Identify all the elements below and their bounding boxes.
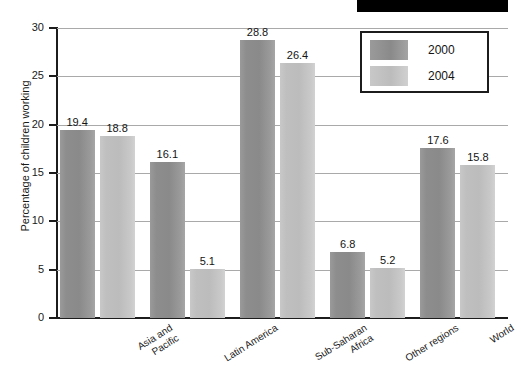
- bar-2004-other-regions: 5.2: [370, 268, 405, 318]
- y-axis-tick-label: 25: [0, 70, 44, 81]
- y-axis-tick: [49, 172, 57, 174]
- y-axis-tick-label: 20: [0, 119, 44, 130]
- y-axis-tick-label: 0: [0, 312, 44, 323]
- legend-swatch-2004: [370, 66, 408, 86]
- bar-2000-world: 17.6: [420, 148, 455, 318]
- bar-value-label: 5.1: [200, 256, 215, 267]
- bar-value-label: 19.4: [66, 117, 87, 128]
- x-axis-label-world: World: [488, 322, 516, 345]
- bar-value-label: 18.8: [106, 123, 127, 134]
- x-axis-label-line: World: [488, 322, 516, 345]
- y-axis-tick: [49, 124, 57, 126]
- y-axis-tick: [49, 27, 57, 29]
- bar-value-label: 28.8: [247, 27, 268, 38]
- y-axis-tick-label: 10: [0, 215, 44, 226]
- y-axis-tick: [49, 75, 57, 77]
- bar-2004-latin-america: 5.1: [190, 269, 225, 318]
- bar-value-label: 17.6: [427, 135, 448, 146]
- x-axis-label-sub-saharan-africa: Sub-SaharanAfrica: [312, 322, 374, 373]
- bar-value-label: 15.8: [467, 152, 488, 163]
- legend-label-2004: 2004: [428, 70, 455, 82]
- chart-legend: 2000 2004: [360, 31, 489, 93]
- bar-2000-latin-america: 16.1: [150, 162, 185, 318]
- bar-value-label: 26.4: [287, 50, 308, 61]
- x-axis-label-other-regions: Other regions: [403, 322, 460, 364]
- bar-value-label: 5.2: [380, 255, 395, 266]
- grouped-bar-chart: Percentage of children working 051015202…: [0, 0, 521, 391]
- bar-2004-world: 15.8: [460, 165, 495, 318]
- y-axis-tick: [49, 269, 57, 271]
- bar-2004-sub-saharan-africa: 26.4: [280, 63, 315, 318]
- y-axis-tick-label: 15: [0, 167, 44, 178]
- x-axis-label-line: Latin America: [223, 322, 280, 364]
- y-axis-title: Percentage of children working: [19, 56, 31, 256]
- bar-value-label: 16.1: [157, 149, 178, 160]
- x-axis-label-latin-america: Latin America: [223, 322, 280, 364]
- y-axis-tick: [49, 317, 57, 319]
- x-axis-label-line: Other regions: [403, 322, 460, 364]
- bar-2004-asia-and-pacific: 18.8: [100, 136, 135, 318]
- bar-2000-sub-saharan-africa: 28.8: [240, 40, 275, 318]
- legend-label-2000: 2000: [428, 44, 455, 56]
- bar-value-label: 6.8: [340, 239, 355, 250]
- bar-2000-other-regions: 6.8: [330, 252, 365, 318]
- x-axis-label-asia-and-pacific: Asia andPacific: [130, 322, 181, 366]
- legend-swatch-2000: [370, 40, 408, 60]
- y-axis-tick-label: 30: [0, 22, 44, 33]
- legend-entry-2004: 2004: [370, 65, 455, 87]
- y-axis-tick: [49, 220, 57, 222]
- y-axis-tick-label: 5: [0, 264, 44, 275]
- legend-entry-2000: 2000: [370, 39, 455, 61]
- bar-2000-asia-and-pacific: 19.4: [60, 130, 95, 318]
